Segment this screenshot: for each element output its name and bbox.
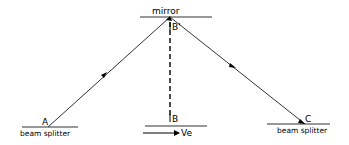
beam-a-to-mirror [48,17,170,127]
velocity-label: Ve [181,128,192,138]
point-a-label: A [42,117,49,127]
point-b-label: B [172,114,178,124]
beam-mirror-to-c [170,17,305,124]
point-b-prime-label: B' [172,22,181,32]
mirror-label: mirror [152,6,180,16]
diagram-canvas: mirror A beam splitter C beam splitter B… [0,0,349,145]
right-splitter-label: beam splitter [277,126,328,135]
arrow-icon [229,63,236,68]
point-c-label: C [305,114,311,124]
left-splitter-label: beam splitter [20,129,71,138]
